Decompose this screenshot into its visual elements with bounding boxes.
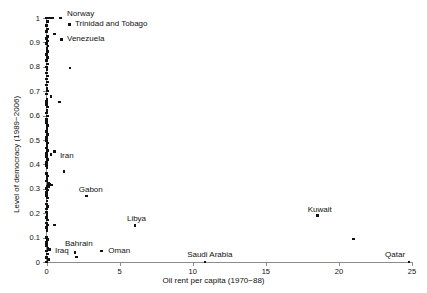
scatter-plot: 0510152025 00.10.20.30.40.50.60.70.80.91… [0,0,427,293]
point-label: Bahrain [65,239,93,248]
y-tick-label: 0.1 [16,233,40,242]
data-point [45,30,48,33]
data-point [53,224,56,227]
x-tick-label: 10 [178,267,208,276]
data-point [45,261,48,264]
data-point [204,261,207,264]
data-point [50,95,53,98]
x-tick-label: 5 [105,267,135,276]
data-point [59,17,62,20]
data-point [408,261,411,264]
y-axis-title: Level of democracy (1989−2006) [12,96,21,213]
x-tick-label: 20 [324,267,354,276]
point-label: Libya [127,214,146,223]
data-point [45,93,48,96]
data-point [63,170,66,173]
data-point [352,238,355,241]
data-point [58,101,61,104]
data-point [316,214,319,217]
x-tick [193,263,194,266]
data-point [134,224,137,227]
data-point [74,251,77,254]
data-point [45,24,48,27]
y-tick-label: 0.8 [16,62,40,71]
data-point [46,229,49,232]
x-tick [266,263,267,266]
point-label: Iran [60,151,74,160]
data-point [75,256,78,259]
data-point [85,195,88,198]
legend-marker [68,23,71,26]
data-point [46,20,49,23]
point-label: Kuwait [308,205,332,214]
legend-label: Trinidad and Tobago [75,19,148,28]
x-tick [339,263,340,266]
x-tick-label: 25 [397,267,427,276]
point-label: Norway [67,9,94,18]
x-tick-label: 15 [251,267,281,276]
point-label: Qatar [385,250,405,259]
x-axis-line [46,262,413,263]
data-point [46,253,49,256]
point-label: Oman [108,246,130,255]
x-axis-title: Oil rent per capita (1970−88) [0,276,427,285]
legend-label: Venezuela [67,34,104,43]
x-tick-label: 0 [32,267,62,276]
legend-marker [60,38,63,41]
data-point [46,167,49,170]
x-tick [120,263,121,266]
data-point [69,67,72,70]
data-point [50,153,53,156]
y-tick-label: 0.9 [16,38,40,47]
data-point [48,248,51,251]
data-point [51,184,54,187]
point-label: Iraq [55,246,69,255]
point-label: Gabon [79,185,103,194]
x-tick [412,263,413,266]
data-point [53,33,56,36]
data-point [53,150,56,153]
y-tick-label: 1 [16,14,40,23]
y-tick-label: 0.7 [16,87,40,96]
data-point [100,250,103,253]
point-label: Saudi Arabia [187,250,232,259]
y-tick-label: 0 [16,258,40,267]
x-tick [47,263,48,266]
data-point [52,17,55,20]
